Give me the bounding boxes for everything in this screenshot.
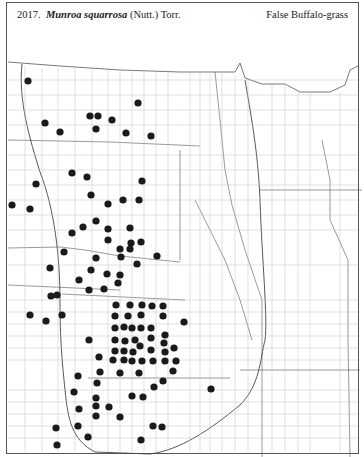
occurrence-dot [169,367,176,374]
occurrence-dot [120,356,127,363]
occurrence-dot [111,336,118,343]
occurrence-dot [103,270,110,277]
occurrence-dot [111,324,118,331]
occurrence-dot [56,128,63,135]
occurrence-dot [52,424,59,431]
occurrence-dot [149,422,156,429]
occurrence-dot [53,291,60,298]
occurrence-dot [86,112,93,119]
occurrence-dot [138,357,145,364]
occurrence-dot [74,422,81,429]
occurrence-dot [159,302,166,309]
occurrence-dot [138,301,145,308]
occurrence-dot [94,112,101,119]
occurrence-dot [117,253,124,260]
occurrence-dot [104,236,111,243]
occurrence-dot [128,357,135,364]
occurrence-dot [111,347,118,354]
occurrence-dot [148,302,155,309]
occurrence-dot [92,394,99,401]
occurrence-dot [24,77,31,84]
occurrence-dot [158,423,165,430]
occurrence-dot [92,412,99,419]
occurrence-dot [116,245,123,252]
occurrence-dot [161,348,168,355]
occurrence-dot [95,353,102,360]
occurrence-dot [96,368,103,375]
occurrence-dot [85,336,92,343]
occurrence-dot [108,116,115,123]
occurrence-dot [114,279,121,286]
occurrence-dot [47,292,54,299]
occurrence-dot [42,317,49,324]
occurrence-dot [84,433,91,440]
occurrence-dot [104,200,111,207]
county-grid [8,62,362,457]
occurrence-dot [83,173,90,180]
occurrence-dot [112,301,119,308]
occurrence-dot [8,201,15,208]
occurrence-dot [147,132,154,139]
occurrence-dot [180,318,187,325]
occurrence-dot [100,285,107,292]
occurrence-dot [160,339,167,346]
occurrence-dot [58,311,65,318]
occurrence-dot [135,196,142,203]
occurrence-dot [26,311,33,318]
occurrence-dot [75,405,82,412]
occurrence-dot [147,346,154,353]
occurrence-dot [137,238,144,245]
occurrence-dot [138,177,145,184]
occurrence-dot [32,180,39,187]
occurrence-dot [92,125,99,132]
occurrence-dot [104,225,111,232]
occurrence-dot [70,388,77,395]
occurrence-dot [68,169,75,176]
occurrence-dot [207,385,214,392]
occurrence-dot [53,441,60,448]
occurrence-dot [122,129,129,136]
occurrence-dot [131,336,138,343]
occurrence-dot [116,271,123,278]
occurrence-dot [92,254,99,261]
occurrence-dot [172,357,179,364]
occurrence-dot [126,245,133,252]
occurrence-dot [87,266,94,273]
occurrence-dot [129,348,136,355]
occurrence-dot [127,239,134,246]
occurrence-dot [137,324,144,331]
occurrence-dot [161,357,168,364]
occurrence-dot [92,402,99,409]
occurrence-dot [136,342,143,349]
distribution-map [0,0,364,457]
occurrence-dot [46,264,53,271]
occurrence-dot [75,276,82,283]
occurrence-dot [105,403,112,410]
occurrence-dot [161,331,168,338]
occurrence-dot [137,436,144,443]
occurrence-dot [128,324,135,331]
occurrence-dot [93,379,100,386]
occurrence-dot [116,369,123,376]
occurrence-dot [139,393,146,400]
occurrence-dot [134,99,141,106]
occurrence-dot [150,383,157,390]
occurrence-dot [147,324,154,331]
occurrence-dot [133,260,140,267]
occurrence-dot [111,312,118,319]
occurrence-dot [159,377,166,384]
occurrence-dot [137,311,144,318]
occurrence-dot [79,223,86,230]
occurrence-dot [68,229,75,236]
occurrence-dot [149,357,156,364]
occurrence-dot [128,392,135,399]
occurrence-dot [41,119,48,126]
occurrence-dot [121,337,128,344]
occurrence-dot [26,205,33,212]
occurrence-dot [170,344,177,351]
occurrence-dot [116,413,123,420]
occurrence-dot [147,334,154,341]
occurrence-dot [135,369,142,376]
occurrence-dot [60,248,67,255]
occurrence-dot [120,323,127,330]
